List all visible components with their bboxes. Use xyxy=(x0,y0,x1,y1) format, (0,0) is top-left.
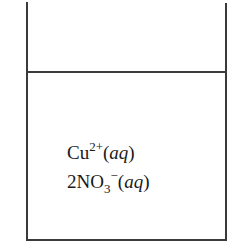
species-formula: NO xyxy=(77,171,104,192)
species-copper-ion: Cu2+(aq) xyxy=(67,139,149,168)
beaker-left-wall xyxy=(26,2,28,241)
species-charge: − xyxy=(110,168,117,183)
species-state: aq xyxy=(124,171,143,192)
solution-surface-line xyxy=(27,71,226,73)
state-close-paren: ) xyxy=(128,142,134,163)
species-charge: 2+ xyxy=(89,139,103,154)
species-state: aq xyxy=(109,142,128,163)
state-close-paren: ) xyxy=(143,171,149,192)
species-subscript: 3 xyxy=(104,181,111,196)
species-coefficient: 2 xyxy=(67,171,77,192)
solution-species-labels: Cu2+(aq) 2NO3−(aq) xyxy=(67,139,149,197)
beaker-bottom xyxy=(26,239,227,241)
species-formula: Cu xyxy=(67,142,89,163)
beaker-diagram: Cu2+(aq) 2NO3−(aq) xyxy=(0,0,234,250)
beaker-right-wall xyxy=(225,3,227,241)
species-nitrate-ion: 2NO3−(aq) xyxy=(67,168,149,197)
